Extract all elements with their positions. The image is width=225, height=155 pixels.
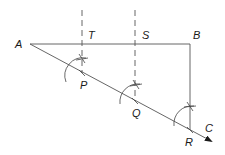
label-q: Q [132,107,141,119]
construction-diagram: A T S B P Q R C [0,0,225,155]
line-ac [30,44,211,141]
label-c: C [205,122,213,134]
label-a: A [14,38,22,50]
label-s: S [142,29,150,41]
label-b: B [193,29,200,41]
construction-arcs-q [120,80,142,104]
label-p: P [80,79,88,91]
construction-arcs-p [65,54,88,82]
label-r: R [185,136,193,148]
label-t: T [88,29,96,41]
construction-arcs-r [174,102,196,133]
